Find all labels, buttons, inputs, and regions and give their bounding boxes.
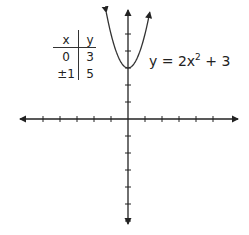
table-cell: 5	[78, 67, 102, 81]
table-cell: ±1	[54, 67, 78, 81]
equation-label: y = 2x2 + 3	[149, 52, 230, 69]
table-cell: 3	[78, 50, 102, 64]
equation-lhs: y = 2x	[149, 53, 195, 69]
equation-rhs: + 3	[201, 53, 231, 69]
table-header-rule	[53, 47, 96, 48]
table-header-y: y	[78, 33, 102, 47]
coordinate-plane	[0, 0, 249, 235]
table-cell: 0	[54, 50, 78, 64]
table-header-x: x	[54, 33, 78, 47]
